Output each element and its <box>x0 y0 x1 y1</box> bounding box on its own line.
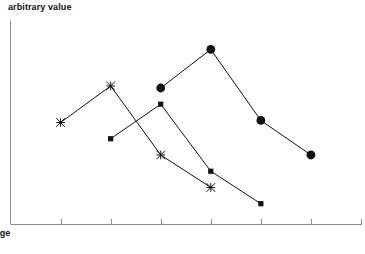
chart-figure: arbitrary value age <box>0 0 365 254</box>
x-axis-label: age <box>0 228 10 238</box>
square-marker <box>208 169 213 174</box>
series-line <box>161 49 311 155</box>
circle-marker <box>206 45 215 54</box>
series-line <box>61 86 211 188</box>
circle-marker <box>256 116 265 125</box>
square-marker <box>158 102 163 107</box>
chart-canvas <box>0 0 365 254</box>
square-marker <box>258 201 263 206</box>
series-square-series <box>108 102 263 207</box>
asterisk-marker <box>56 118 65 127</box>
chart-series-layer <box>56 45 315 206</box>
series-line <box>111 104 261 203</box>
x-axis-label-wrap: age <box>0 228 365 238</box>
series-star-series <box>56 82 215 192</box>
circle-marker <box>156 84 165 93</box>
asterisk-marker <box>206 183 215 192</box>
series-circle-series <box>156 45 315 159</box>
circle-marker <box>307 151 316 160</box>
square-marker <box>108 136 113 141</box>
asterisk-marker <box>106 82 115 91</box>
asterisk-marker <box>156 151 165 160</box>
clipped-caption <box>0 244 365 254</box>
